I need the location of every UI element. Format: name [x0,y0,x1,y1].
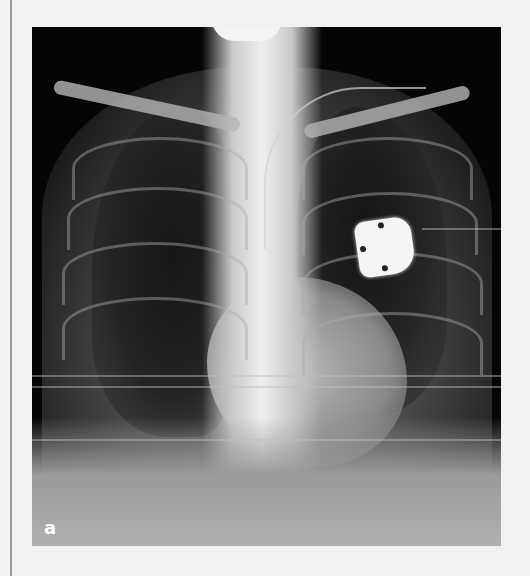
port-screw-hole [382,265,389,272]
rib [62,242,248,305]
abdomen-region [32,417,501,546]
rib [67,187,248,250]
scan-artifact-line [32,439,501,441]
scan-artifact-line [422,228,501,230]
page-margin-rule [10,0,12,576]
rib [62,297,248,360]
panel-label: a [44,517,56,538]
rib [302,312,483,375]
scan-artifact-line [32,375,501,377]
port-screw-hole [360,246,367,253]
port-screw-hole [378,222,385,229]
xray-figure: a [32,27,501,546]
scan-artifact-line [32,386,501,388]
